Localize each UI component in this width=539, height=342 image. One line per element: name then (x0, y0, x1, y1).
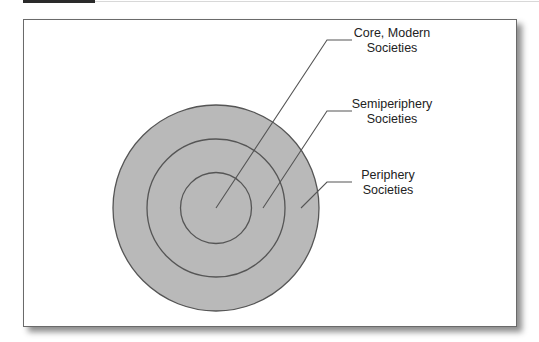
periphery-label: Periphery Societies (328, 168, 448, 198)
core-label-line1: Core, Modern (332, 26, 452, 41)
semiperiphery-label: Semiperiphery Societies (332, 97, 452, 127)
core-label: Core, Modern Societies (332, 26, 452, 56)
semiperiphery-label-line1: Semiperiphery (332, 97, 452, 112)
concentric-diagram (0, 0, 539, 342)
semiperiphery-label-line2: Societies (332, 112, 452, 127)
periphery-label-line1: Periphery (328, 168, 448, 183)
core-label-line2: Societies (332, 41, 452, 56)
periphery-label-line2: Societies (328, 183, 448, 198)
